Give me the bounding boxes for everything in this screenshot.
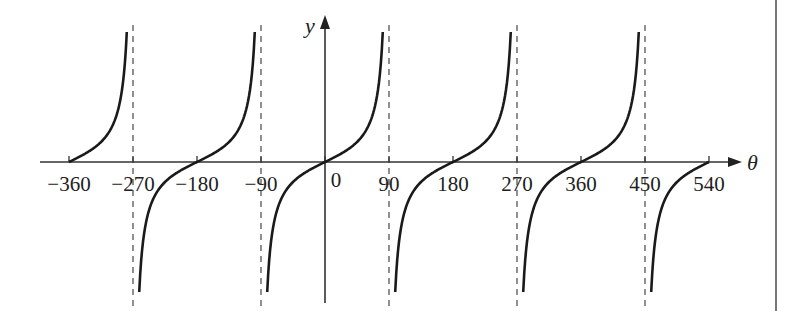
x-tick-label: −270 — [111, 172, 154, 196]
x-tick-label: −360 — [47, 172, 90, 196]
x-tick-label: 180 — [437, 172, 469, 196]
x-axis-label: θ — [747, 150, 758, 175]
x-tick-label: 450 — [629, 172, 661, 196]
tangent-graph: −360−270−180−90090180270360450540 θ y — [0, 0, 808, 311]
y-axis-label: y — [303, 13, 315, 38]
x-tick-label: 270 — [501, 172, 533, 196]
x-tick-label: −180 — [175, 172, 218, 196]
x-axis-arrow-icon — [728, 157, 742, 167]
tan-branch — [69, 32, 127, 162]
x-tick-label: −90 — [245, 172, 278, 196]
x-tick-label: 540 — [693, 172, 725, 196]
asymptote-lines — [133, 25, 645, 306]
x-tick-label: 90 — [378, 172, 399, 196]
y-axis-arrow-icon — [320, 15, 330, 29]
x-tick-label: 360 — [565, 172, 597, 196]
x-tick-label: 0 — [331, 168, 342, 192]
